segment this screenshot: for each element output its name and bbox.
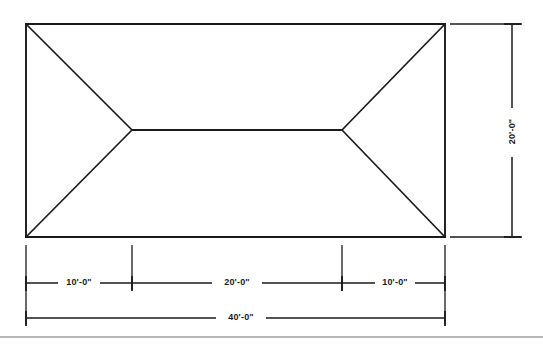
dimension-label-left-10ft: 10'-0" — [58, 278, 100, 287]
hip-line-top-right — [342, 24, 445, 130]
hip-roof-drawing: 10'-0" 20'-0" 10'-0" 40'-0" 20'-0" — [0, 0, 543, 349]
hip-line-bottom-right — [342, 130, 445, 237]
roof-plan-svg — [0, 0, 543, 349]
dimension-label-height-20ft: 20'-0" — [508, 110, 517, 154]
dimension-label-right-10ft: 10'-0" — [375, 278, 415, 287]
dimension-label-ridge-20ft: 20'-0" — [212, 278, 262, 287]
dimension-label-overall-40ft: 40'-0" — [216, 313, 266, 322]
hip-line-top-left — [26, 24, 132, 130]
hip-line-bottom-left — [26, 130, 132, 237]
